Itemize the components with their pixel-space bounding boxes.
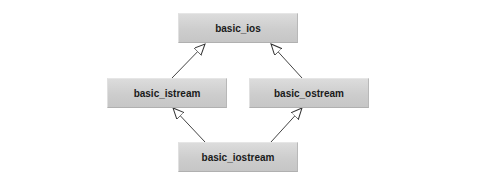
node-basic-istream: basic_istream — [107, 78, 227, 108]
node-label: basic_ios — [215, 23, 261, 34]
node-basic-ostream: basic_ostream — [249, 78, 369, 108]
edge-iostream-to-ostream — [271, 108, 302, 142]
edge-iostream-to-istream — [173, 108, 205, 142]
node-label: basic_ostream — [274, 88, 344, 99]
edge-ostream-to-ios — [271, 44, 302, 78]
node-basic-ios: basic_ios — [178, 13, 298, 43]
edge-istream-to-ios — [172, 44, 205, 78]
node-label: basic_iostream — [202, 152, 275, 163]
node-label: basic_istream — [134, 88, 201, 99]
node-basic-iostream: basic_iostream — [178, 142, 298, 172]
